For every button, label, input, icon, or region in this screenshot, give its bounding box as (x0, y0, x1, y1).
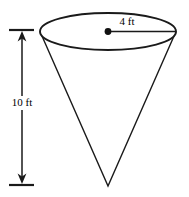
center-point-dot (105, 28, 112, 35)
cone-lateral-surface (40, 32, 176, 187)
height-dimension-label: 10 ft (3, 96, 41, 109)
cone-geometry-diagram: 10 ft 4 ft (0, 0, 189, 197)
radius-dimension-label: 4 ft (112, 16, 142, 27)
